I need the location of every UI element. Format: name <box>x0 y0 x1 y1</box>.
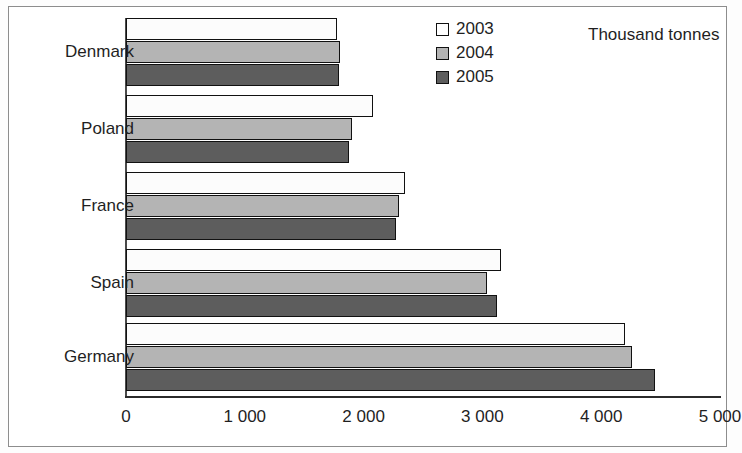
bar-group-poland <box>126 95 720 165</box>
bar-france-2005 <box>126 218 396 240</box>
tick-label-3000: 3 000 <box>461 406 504 428</box>
bar-germany-2005 <box>126 369 655 391</box>
bar-denmark-2004 <box>126 41 340 63</box>
category-label-germany: Germany <box>14 347 134 367</box>
tick-label-0: 0 <box>121 406 130 428</box>
tick-label-2000: 2 000 <box>342 406 385 428</box>
category-label-france: France <box>14 196 134 216</box>
bar-poland-2003 <box>126 95 373 117</box>
white-square-icon <box>436 23 449 36</box>
bar-germany-2003 <box>126 323 625 345</box>
legend-label-2004: 2004 <box>456 44 494 62</box>
bar-poland-2004 <box>126 118 352 140</box>
bar-group-spain <box>126 249 720 319</box>
bar-denmark-2005 <box>126 64 339 86</box>
legend-entry-2004: 2004 <box>436 41 494 65</box>
bar-spain-2005 <box>126 295 497 317</box>
bar-germany-2004 <box>126 346 632 368</box>
tick-label-1000: 1 000 <box>224 406 267 428</box>
bar-france-2003 <box>126 172 405 194</box>
category-label-poland: Poland <box>14 119 134 139</box>
tick-label-5000: 5 000 <box>699 406 742 428</box>
bar-group-france <box>126 172 720 242</box>
bar-chart-figure: DenmarkPolandFranceSpainGermany 01 0002 … <box>0 0 742 453</box>
dark-gray-square-icon <box>436 71 449 84</box>
bar-poland-2005 <box>126 141 349 163</box>
plot-area <box>126 18 720 397</box>
light-gray-square-icon <box>436 47 449 60</box>
bar-group-germany <box>126 323 720 393</box>
legend-label-2003: 2003 <box>456 20 494 38</box>
legend-label-2005: 2005 <box>456 68 494 86</box>
bar-denmark-2003 <box>126 18 337 40</box>
category-label-denmark: Denmark <box>14 42 134 62</box>
tick-label-4000: 4 000 <box>580 406 623 428</box>
legend-entry-2003: 2003 <box>436 17 494 41</box>
unit-title: Thousand tonnes <box>588 25 719 45</box>
bar-france-2004 <box>126 195 399 217</box>
legend-entry-2005: 2005 <box>436 65 494 89</box>
bar-spain-2003 <box>126 249 501 271</box>
bar-spain-2004 <box>126 272 487 294</box>
chart-legend: 200320042005 <box>436 17 494 89</box>
category-label-spain: Spain <box>14 273 134 293</box>
